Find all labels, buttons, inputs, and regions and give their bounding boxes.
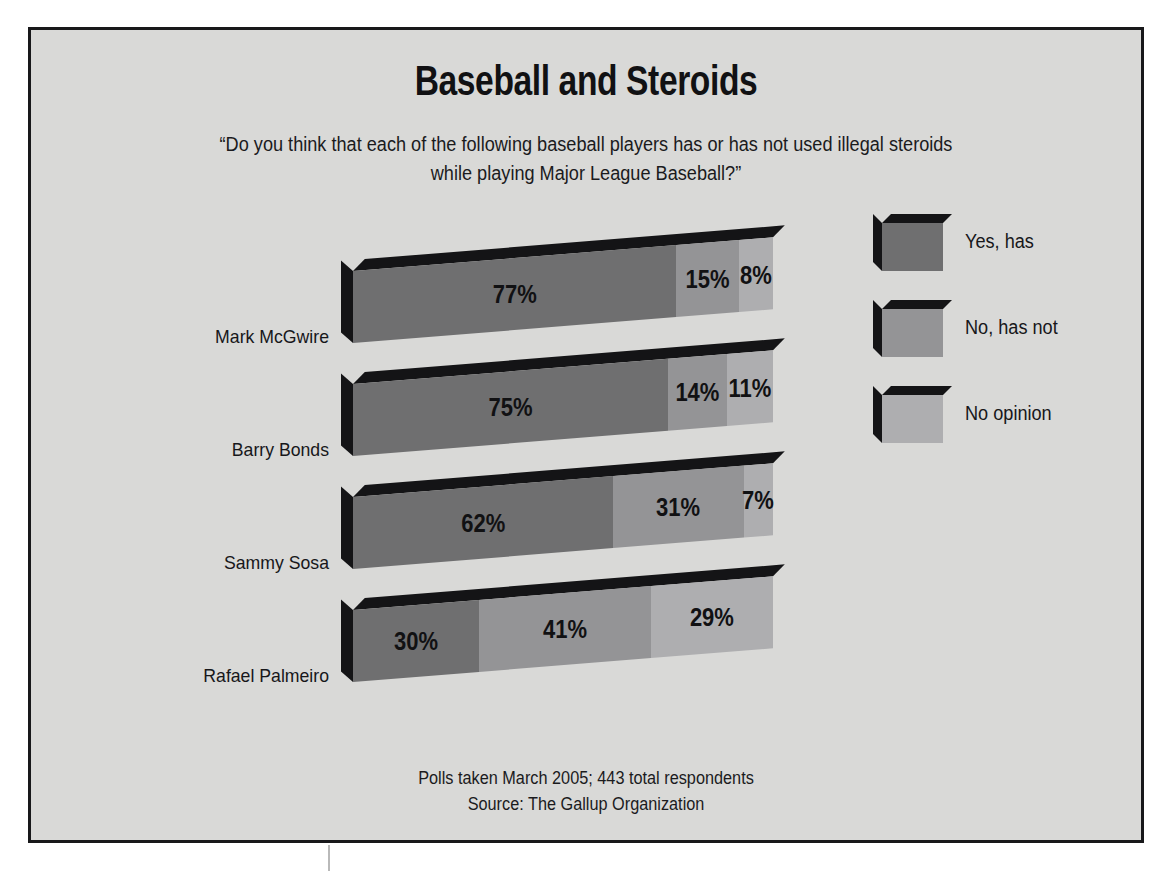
legend-swatch-icon bbox=[873, 223, 943, 271]
bar-segment-noop[interactable]: 7% bbox=[744, 463, 773, 537]
chart-frame: Baseball and Steroids “Do you think that… bbox=[28, 27, 1144, 843]
category-label: Rafael Palmeiro bbox=[106, 665, 329, 687]
category-label: Mark McGwire bbox=[106, 326, 329, 348]
bar-segment-value: 31% bbox=[621, 471, 736, 543]
bar-segment-yes[interactable]: 77% bbox=[353, 245, 676, 343]
bar-3d-body: 77%15%8% bbox=[341, 237, 773, 344]
legend-swatch-icon bbox=[873, 395, 943, 443]
bar-segment-noop[interactable]: 8% bbox=[739, 237, 773, 312]
legend-label: Yes, has bbox=[965, 230, 1034, 253]
category-label: Barry Bonds bbox=[106, 439, 329, 461]
bar-segments: 75%14%11% bbox=[353, 350, 773, 456]
bar-group: 75%14%11% bbox=[341, 385, 773, 457]
scan-artifact-line bbox=[328, 845, 330, 871]
bar-segments: 62%31%7% bbox=[353, 463, 773, 569]
legend-swatch-left-face bbox=[873, 300, 882, 357]
legend-label: No opinion bbox=[965, 402, 1052, 425]
legend-swatch-front-face bbox=[882, 223, 943, 271]
legend-swatch-top-face bbox=[882, 300, 952, 309]
legend-label: No, has not bbox=[965, 316, 1058, 339]
chart-legend: Yes, hasNo, has notNo opinion bbox=[869, 213, 1119, 471]
legend-swatch-front-face bbox=[882, 309, 943, 357]
bar-segment-noop[interactable]: 29% bbox=[651, 576, 773, 658]
bar-segment-value: 62% bbox=[369, 487, 598, 559]
bar-segment-value: 8% bbox=[718, 239, 794, 311]
legend-swatch-top-face bbox=[882, 214, 952, 223]
bar-segment-value: 29% bbox=[658, 581, 765, 653]
footnote-line-2: Source: The Gallup Organization bbox=[261, 791, 912, 817]
bar-segment-value: 75% bbox=[372, 371, 649, 443]
bar-segment-no[interactable]: 41% bbox=[479, 586, 651, 672]
bar-3d-body: 62%31%7% bbox=[341, 463, 773, 570]
bar-segments: 77%15%8% bbox=[353, 237, 773, 343]
bar-segment-value: 7% bbox=[720, 464, 796, 536]
legend-item[interactable]: No, has not bbox=[869, 299, 1119, 367]
bar-left-face bbox=[341, 260, 353, 343]
legend-swatch-left-face bbox=[873, 386, 882, 443]
legend-swatch-left-face bbox=[873, 214, 882, 271]
bar-segment-yes[interactable]: 75% bbox=[353, 359, 668, 456]
bar-3d-body: 30%41%29% bbox=[341, 576, 773, 683]
bar-segments: 30%41%29% bbox=[353, 576, 773, 682]
legend-item[interactable]: Yes, has bbox=[869, 213, 1119, 281]
bar-group: 77%15%8% bbox=[341, 272, 773, 344]
bar-segment-yes[interactable]: 30% bbox=[353, 600, 479, 682]
bar-left-face bbox=[341, 373, 353, 456]
bar-segment-value: 30% bbox=[361, 605, 472, 677]
chart-footnote: Polls taken March 2005; 443 total respon… bbox=[261, 765, 912, 817]
footnote-line-1: Polls taken March 2005; 443 total respon… bbox=[261, 765, 912, 791]
bar-3d-body: 75%14%11% bbox=[341, 350, 773, 457]
legend-swatch-top-face bbox=[882, 386, 952, 395]
bar-group: 62%31%7% bbox=[341, 498, 773, 570]
legend-item[interactable]: No opinion bbox=[869, 385, 1119, 453]
bar-segment-yes[interactable]: 62% bbox=[353, 476, 613, 569]
bar-left-face bbox=[341, 599, 353, 682]
bar-segment-value: 41% bbox=[489, 593, 641, 665]
bar-segment-value: 11% bbox=[712, 352, 788, 424]
bar-segment-noop[interactable]: 11% bbox=[727, 350, 773, 426]
bar-group: 30%41%29% bbox=[341, 611, 773, 683]
legend-swatch-icon bbox=[873, 309, 943, 357]
bar-segment-value: 77% bbox=[372, 258, 657, 330]
category-label: Sammy Sosa bbox=[106, 552, 329, 574]
legend-swatch-front-face bbox=[882, 395, 943, 443]
bar-left-face bbox=[341, 486, 353, 569]
